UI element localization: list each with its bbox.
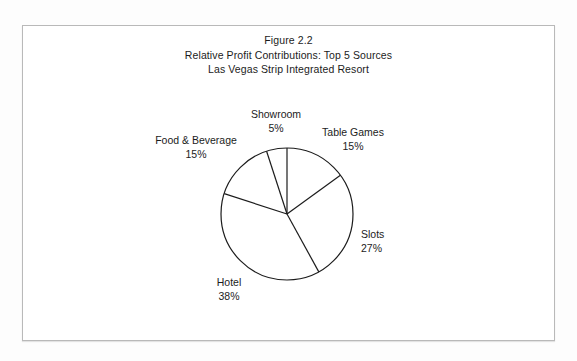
figure-frame: Figure 2.2 Relative Profit Contributions… [22,25,555,341]
pie-label-food-and-beverage-name: Food & Beverage [155,133,237,147]
pie-label-table-games: Table Games 15% [322,125,384,153]
pie-label-showroom-name: Showroom [251,107,301,121]
pie-chart: Showroom 5% Table Games 15% Food & Bever… [23,26,556,342]
pie-label-slots: Slots 27% [361,227,384,255]
pie-label-slots-name: Slots [361,227,384,241]
pie-label-food-and-beverage: Food & Beverage 15% [155,133,237,161]
pie-label-food-and-beverage-value: 15% [155,147,237,161]
pie-label-hotel: Hotel 38% [217,275,242,303]
pie-label-showroom: Showroom 5% [251,107,301,135]
pie-label-table-games-value: 15% [322,139,384,153]
pie-label-showroom-value: 5% [251,121,301,135]
pie-slices-group [221,148,353,280]
screenshot-page: Figure 2.2 Relative Profit Contributions… [0,0,577,361]
pie-label-slots-value: 27% [361,241,384,255]
pie-label-hotel-value: 38% [217,289,242,303]
pie-label-hotel-name: Hotel [217,275,242,289]
pie-label-table-games-name: Table Games [322,125,384,139]
pie-chart-svg [23,26,556,342]
